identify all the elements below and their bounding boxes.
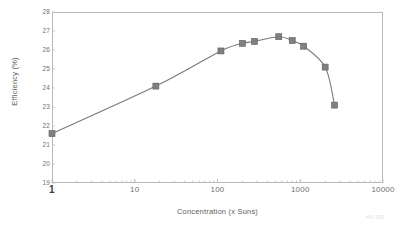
data-point-marker	[322, 64, 328, 70]
watermark-text: HK-301	[366, 214, 385, 220]
data-line	[52, 37, 335, 134]
data-point-marker	[218, 48, 224, 54]
data-point-marker	[332, 102, 338, 108]
data-point-marker	[153, 83, 159, 89]
data-point-marker	[289, 38, 295, 44]
data-point-marker	[301, 43, 307, 49]
data-point-marker	[239, 40, 245, 46]
data-point-marker	[276, 34, 282, 40]
data-point-marker	[49, 131, 55, 137]
data-point-marker	[252, 38, 258, 44]
chart-figure: 19202122232425262728 Efficiency (%) 1101…	[0, 0, 411, 235]
chart-canvas	[0, 0, 411, 235]
